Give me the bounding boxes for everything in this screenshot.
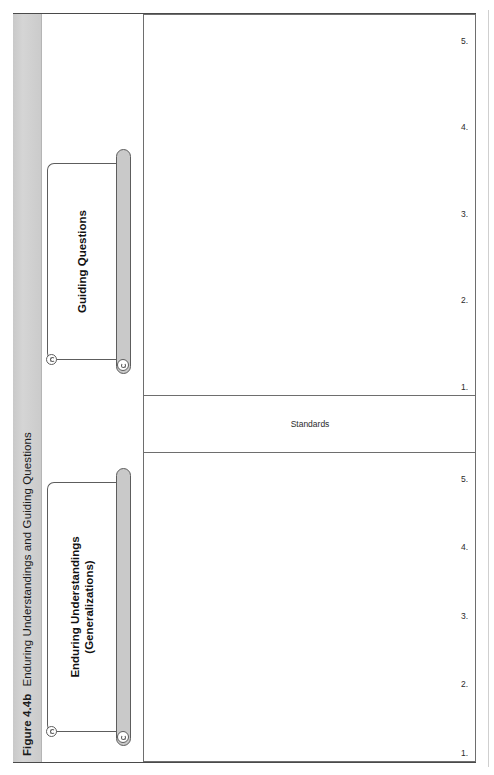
guiding-questions-item: 4. bbox=[461, 124, 468, 133]
scroll-bottom-roll bbox=[116, 149, 131, 374]
cell-standards[interactable]: Standards bbox=[143, 395, 476, 452]
banner-guiding-questions: Guiding Questions bbox=[47, 149, 131, 374]
guiding-questions-item: 2. bbox=[461, 297, 468, 306]
figure-container: Figure 4.4b Enduring Understandings and … bbox=[0, 0, 494, 775]
figure-number: Figure 4.4b bbox=[21, 694, 33, 756]
guiding-questions-item: 5. bbox=[461, 37, 468, 46]
figure-bottom-rule bbox=[13, 762, 476, 763]
page-edge-rule bbox=[488, 10, 489, 767]
scroll-top-curl-icon bbox=[46, 726, 57, 737]
banner-guiding-questions-label: Guiding Questions bbox=[75, 210, 89, 313]
scroll-bottom-roll bbox=[116, 468, 131, 746]
cell-guiding-questions[interactable]: 1.2.3.4.5. bbox=[143, 14, 476, 395]
scroll-roll-curl-icon bbox=[117, 732, 129, 744]
enduring-understandings-item: 2. bbox=[461, 681, 468, 690]
banner-enduring-understandings-label: Enduring Understandings (Generalizations… bbox=[68, 536, 97, 677]
enduring-understandings-item: 1. bbox=[461, 749, 468, 758]
worksheet-rotated-canvas: Enduring Understandings (Generalizations… bbox=[41, 14, 476, 762]
enduring-understandings-list: 1.2.3.4.5. bbox=[144, 453, 475, 761]
figure-caption-band: Figure 4.4b Enduring Understandings and … bbox=[13, 14, 42, 762]
worksheet: Enduring Understandings (Generalizations… bbox=[41, 14, 476, 762]
enduring-understandings-item: 5. bbox=[461, 475, 468, 484]
banner-label-holder: Guiding Questions bbox=[47, 163, 117, 360]
banner-label-holder: Enduring Understandings (Generalizations… bbox=[47, 482, 117, 732]
guiding-questions-list: 1.2.3.4.5. bbox=[144, 15, 475, 395]
guiding-questions-item: 1. bbox=[461, 383, 468, 392]
banner-enduring-understandings: Enduring Understandings (Generalizations… bbox=[47, 468, 131, 746]
figure-title: Enduring Understandings and Guiding Ques… bbox=[21, 432, 33, 686]
standards-label: Standards bbox=[290, 419, 329, 429]
enduring-understandings-item: 4. bbox=[461, 544, 468, 553]
figure-caption: Figure 4.4b Enduring Understandings and … bbox=[13, 14, 41, 762]
scroll-roll-curl-icon bbox=[117, 360, 129, 372]
standards-label-holder: Standards bbox=[144, 396, 475, 452]
guiding-questions-item: 3. bbox=[461, 210, 468, 219]
enduring-understandings-item: 3. bbox=[461, 612, 468, 621]
cell-enduring-understandings[interactable]: 1.2.3.4.5. bbox=[143, 452, 476, 762]
scroll-top-curl-icon bbox=[46, 354, 57, 365]
worksheet-table: 1.2.3.4.5. Standards 1.2.3.4.5. bbox=[143, 14, 476, 762]
